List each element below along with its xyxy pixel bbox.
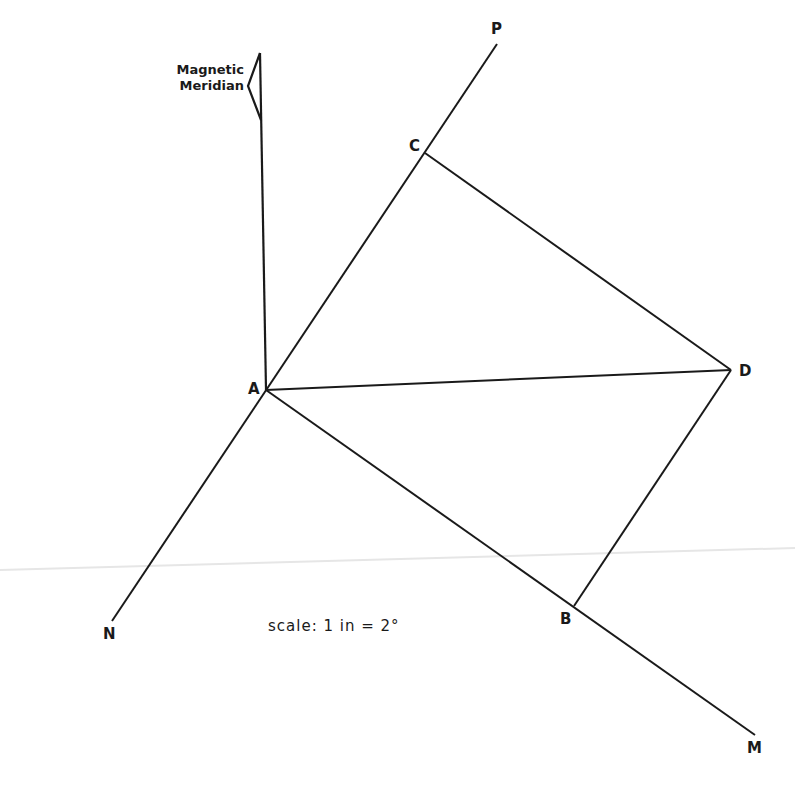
point-label-M: M [747,741,762,756]
point-label-P: P [491,22,502,37]
line-AM [266,390,755,735]
point-label-A: A [248,382,260,397]
line-NP [112,44,497,621]
point-label-C: C [409,139,420,154]
meridian-label: Magnetic Meridian [160,62,244,94]
line-DB [574,370,731,606]
point-label-D: D [739,364,751,379]
meridian-label-line1: Magnetic [160,62,244,78]
point-label-N: N [103,627,116,642]
scan-artifact-line [0,548,795,570]
point-label-B: B [560,612,571,627]
meridian-label-line2: Meridian [160,78,244,94]
geometry-svg [0,0,795,788]
scale-text: scale: 1 in = 2° [268,619,400,634]
line-CD [425,153,731,370]
line-AD [266,370,731,390]
magnetic-meridian-line [260,53,266,390]
meridian-arrowhead-icon [248,53,261,120]
